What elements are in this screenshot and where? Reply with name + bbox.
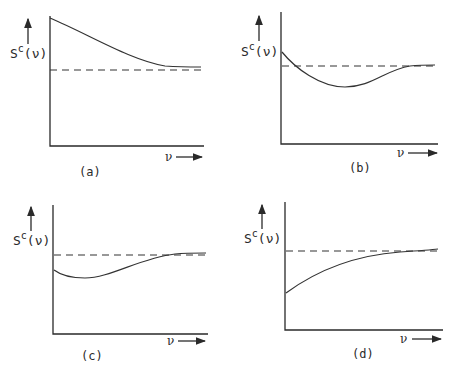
panel-a-curve: [50, 18, 201, 67]
panel-d-x-label: ν: [400, 332, 407, 346]
panel-a-axes: [50, 16, 204, 146]
panel-d-axes: [285, 202, 443, 330]
panel-b-caption: (b): [349, 161, 371, 175]
panel-d-caption: (d): [352, 347, 374, 361]
panel-d-y-label: Sc(ν): [244, 228, 281, 246]
panel-a: Sc(ν) ν (a): [10, 16, 204, 179]
figure-canvas: Sc(ν) ν (a) Sc(ν) ν (b) Sc(ν) ν (c): [0, 0, 456, 375]
panel-b-curve: [282, 52, 435, 87]
panel-b-y-label: Sc(ν): [241, 41, 278, 59]
panel-b: Sc(ν) ν (b): [241, 12, 438, 175]
panel-c-x-label: ν: [167, 334, 174, 348]
panel-a-caption: (a): [79, 165, 101, 179]
panel-d-curve: [286, 249, 438, 293]
panel-a-y-label: Sc(ν): [10, 43, 47, 61]
panel-c-curve: [54, 253, 206, 278]
panel-c-axes: [53, 205, 208, 334]
panel-a-x-label: ν: [165, 150, 172, 164]
panel-b-axes: [281, 12, 438, 144]
panel-c-caption: (c): [81, 349, 103, 363]
panel-c-y-label: Sc(ν): [13, 230, 50, 248]
panel-b-x-label: ν: [397, 146, 404, 160]
panel-d: Sc(ν) ν (d): [244, 202, 443, 361]
panel-c: Sc(ν) ν (c): [13, 205, 208, 363]
